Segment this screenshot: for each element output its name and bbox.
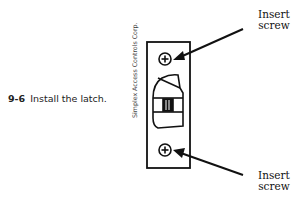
top-screw-icon [159,53,171,65]
latch-illustration [0,0,299,200]
arrow-top-icon [173,29,243,60]
latch-bolt-icon [153,75,183,128]
bottom-screw-icon [159,144,171,156]
arrow-bottom-icon [173,148,243,175]
